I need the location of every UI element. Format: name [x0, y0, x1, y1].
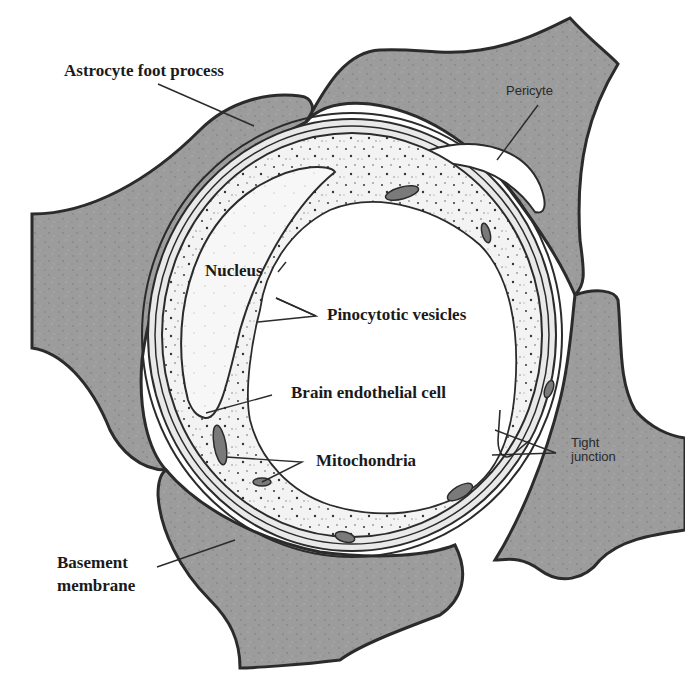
label-basement-membrane: Basement membrane — [57, 551, 135, 597]
label-basement-membrane-line2: membrane — [57, 574, 135, 597]
label-basement-membrane-line1: Basement — [57, 551, 135, 574]
label-tight-junction-line1: Tight — [571, 436, 616, 450]
label-tight-junction-line2: junction — [571, 450, 616, 464]
label-mitochondria: Mitochondria — [316, 452, 416, 471]
blood-brain-barrier-diagram: Astrocyte foot process Pericyte Nucleus … — [0, 0, 685, 683]
label-nucleus: Nucleus — [205, 262, 263, 281]
label-tight-junction: Tight junction — [571, 436, 616, 465]
label-pinocytotic-vesicles: Pinocytotic vesicles — [327, 306, 466, 325]
label-brain-endothelial-cell: Brain endothelial cell — [291, 384, 446, 403]
label-pericyte: Pericyte — [506, 84, 553, 98]
label-astrocyte-foot-process: Astrocyte foot process — [64, 62, 224, 81]
